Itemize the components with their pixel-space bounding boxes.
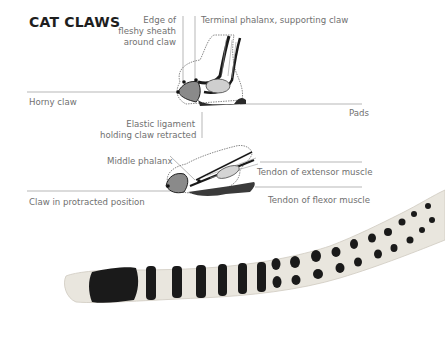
diagram-artwork <box>0 0 445 340</box>
retracted-claw-illustration <box>176 35 246 106</box>
protracted-claw-illustration <box>166 145 258 196</box>
spotted-cat-tail-illustration <box>64 190 445 303</box>
